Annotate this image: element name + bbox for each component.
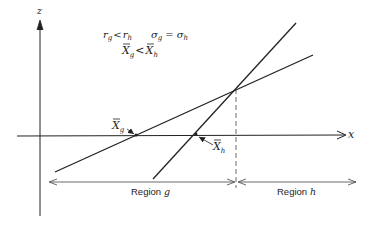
xbar-h-point <box>195 133 198 136</box>
region-g-label: Region <box>131 186 161 197</box>
region-h: Regionh <box>238 179 356 197</box>
svg-text:σg=σh: σg=σh <box>151 29 188 42</box>
svg-text:rg<rh: rg<rh <box>103 29 132 42</box>
z-axis: z <box>36 6 43 216</box>
svg-text:Xg<Xh: Xg<Xh <box>121 44 158 59</box>
region-h-label: Region <box>277 186 307 197</box>
svg-text:Xg: Xg <box>111 119 125 134</box>
line-h <box>153 23 296 179</box>
svg-text:Regiong: Regiong <box>131 186 170 197</box>
svg-text:Xh: Xh <box>212 140 225 155</box>
region-g: Regiong <box>49 179 235 197</box>
conditions-block: rg<rh σg=σh Xg<Xh <box>103 29 188 59</box>
x-axis: x <box>17 128 355 141</box>
z-axis-arrow-icon <box>37 20 43 30</box>
svg-text:Regionh: Regionh <box>277 186 316 197</box>
z-axis-label: z <box>36 6 42 16</box>
line-g <box>55 55 313 172</box>
xbar-g-point <box>135 134 138 137</box>
x-axis-label: x <box>348 128 355 141</box>
xbar-g-annotation: Xg <box>111 119 138 137</box>
diagram-canvas: z x rg<rh σg=σh Xg<Xh Xg <box>0 0 370 226</box>
